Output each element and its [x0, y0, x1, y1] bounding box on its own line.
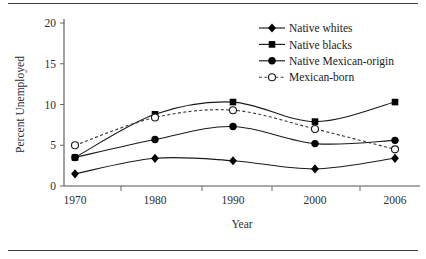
legend-label: Native whites: [289, 22, 353, 34]
series-line: [75, 126, 395, 157]
legend-label: Native blacks: [289, 39, 352, 51]
x-axis-title: Year: [231, 218, 252, 230]
data-point-open-circle-marker: [152, 114, 159, 121]
y-tick-label: 5: [50, 139, 56, 151]
x-tick-label: 2000: [304, 194, 327, 206]
y-axis-title: Percent Unemployed: [14, 56, 27, 153]
y-tick-label: 10: [45, 99, 57, 111]
x-tick-label: 1980: [144, 194, 167, 206]
chart-svg: 05101520 Percent Unemployed 197019801990…: [0, 6, 426, 248]
x-axis: 19701980199020002006 Year: [64, 186, 421, 230]
data-point-diamond-marker: [268, 23, 276, 32]
series-native-mexican-origin: [71, 123, 398, 161]
data-point-diamond-marker: [391, 154, 399, 163]
data-point-circle-marker: [71, 154, 78, 161]
figure-bottom-rule: [8, 250, 418, 251]
data-point-diamond-marker: [311, 164, 319, 173]
figure-top-rule: [8, 3, 418, 4]
y-tick-label: 0: [50, 180, 56, 192]
series-mexican-born: [72, 107, 399, 153]
data-point-square-marker: [269, 41, 276, 48]
y-tick-label: 15: [45, 58, 57, 70]
legend-item-native-whites[interactable]: Native whites: [259, 22, 353, 34]
data-point-circle-marker: [151, 136, 158, 143]
x-tick-label: 1990: [222, 194, 245, 206]
data-point-open-circle-marker: [269, 74, 276, 81]
data-point-circle-marker: [229, 123, 236, 130]
legend-label: Native Mexican-origin: [289, 55, 394, 68]
x-tick-label: 1970: [64, 194, 87, 206]
data-point-circle-marker: [391, 137, 398, 144]
data-point-circle-marker: [268, 57, 275, 64]
data-point-open-circle-marker: [72, 142, 79, 149]
data-point-square-marker: [230, 99, 237, 106]
data-point-circle-marker: [311, 140, 318, 147]
legend-label: Mexican-born: [289, 71, 354, 83]
x-axis-ticks: 19701980199020002006: [64, 186, 407, 206]
data-point-diamond-marker: [71, 169, 79, 178]
y-axis-ticks: 05101520: [45, 17, 65, 192]
chart-legend: Native whitesNative blacksNative Mexican…: [259, 22, 394, 83]
x-tick-label: 2006: [384, 194, 407, 206]
y-axis: 05101520 Percent Unemployed: [14, 17, 64, 192]
legend-item-mexican-born[interactable]: Mexican-born: [259, 71, 354, 83]
data-point-open-circle-marker: [392, 146, 399, 153]
data-point-open-circle-marker: [230, 107, 237, 114]
data-point-diamond-marker: [229, 156, 237, 165]
line-chart: 05101520 Percent Unemployed 197019801990…: [0, 6, 426, 248]
data-point-diamond-marker: [151, 154, 159, 163]
data-point-square-marker: [312, 118, 319, 125]
legend-item-native-mexican-origin[interactable]: Native Mexican-origin: [259, 55, 394, 68]
y-tick-label: 20: [45, 17, 57, 29]
data-point-open-circle-marker: [312, 125, 319, 132]
data-series-group: [71, 99, 399, 179]
figure-container: 05101520 Percent Unemployed 197019801990…: [0, 0, 426, 259]
legend-item-native-blacks[interactable]: Native blacks: [259, 39, 352, 51]
series-native-whites: [71, 154, 399, 179]
data-point-square-marker: [392, 99, 399, 106]
